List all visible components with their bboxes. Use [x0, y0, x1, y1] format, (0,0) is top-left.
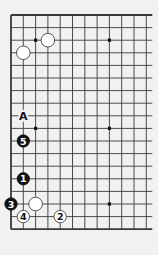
star-point — [108, 127, 111, 130]
white-stone — [17, 46, 31, 60]
move-number-5: 5 — [20, 136, 27, 147]
star-point — [108, 202, 111, 205]
marker-label-a: A — [19, 110, 28, 123]
move-number-4: 4 — [20, 211, 27, 222]
star-point — [108, 39, 111, 42]
white-stone — [41, 33, 55, 47]
move-number-1: 1 — [20, 173, 27, 184]
go-board-diagram: A 51342 — [0, 0, 158, 255]
star-point — [34, 39, 37, 42]
move-number-2: 2 — [57, 211, 64, 222]
board-markers: A — [18, 110, 28, 123]
board-grid — [11, 15, 152, 229]
white-stone — [29, 197, 43, 211]
star-point — [34, 127, 37, 130]
move-number-3: 3 — [8, 199, 15, 210]
